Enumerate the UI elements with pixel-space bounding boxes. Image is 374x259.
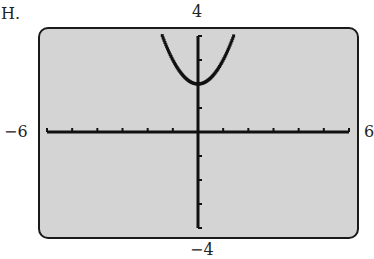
calculator-screen [0, 0, 374, 259]
